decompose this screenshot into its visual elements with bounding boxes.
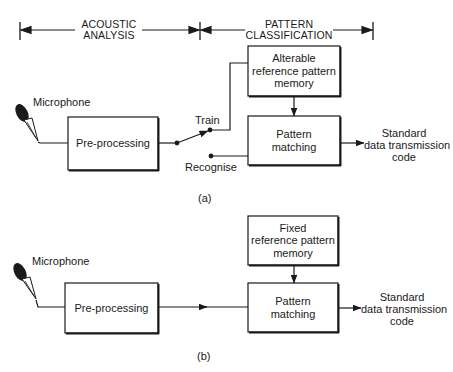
- output-label-b: Standard data transmission code: [361, 291, 443, 327]
- microphone-label-a: Microphone: [33, 96, 90, 108]
- preprocessing-block-a: Pre-processing: [68, 117, 158, 170]
- pattern-matching-block-b: Pattern matching: [248, 283, 338, 332]
- caption-a: (a): [198, 192, 211, 204]
- output-label-a: Standard data transmission code: [364, 127, 444, 163]
- microphone-icon-a: [13, 103, 38, 141]
- microphone-label-b: Microphone: [32, 255, 89, 267]
- switch-recognise-label: Recognise: [185, 161, 237, 173]
- switch-train-label: Train: [195, 114, 220, 126]
- acoustic-analysis-heading: ACOUSTIC ANALYSIS: [80, 19, 138, 41]
- alterable-memory-block: Alterable reference pattern memory: [248, 46, 340, 96]
- preprocessing-block-b: Pre-processing: [65, 283, 158, 333]
- fixed-memory-block: Fixed reference pattern memory: [248, 216, 338, 265]
- pattern-matching-block-a: Pattern matching: [248, 116, 340, 165]
- caption-b: (b): [197, 350, 210, 362]
- pattern-classification-heading: PATTERN CLASSIFICATION: [245, 19, 333, 41]
- microphone-icon-b: [11, 262, 36, 299]
